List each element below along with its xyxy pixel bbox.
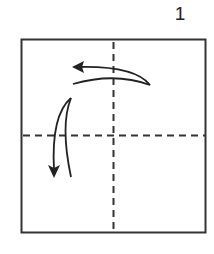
- origami-diagram: [0, 0, 214, 254]
